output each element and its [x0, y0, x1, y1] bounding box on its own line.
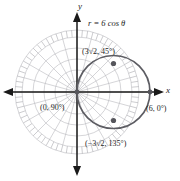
point-label-neg3root2-135deg: (−3√2, 135°) [85, 140, 126, 148]
x-axis-arrow-left [3, 88, 13, 96]
point-label-6-0deg: (6, 0°) [146, 105, 167, 113]
y-axis-arrow-down [73, 166, 81, 176]
grid-spoke [77, 92, 125, 120]
y-axis-arrow-up [73, 12, 81, 22]
point-marker-6-0deg [148, 90, 153, 95]
grid-spoke [38, 53, 77, 92]
grid-spoke [50, 44, 78, 92]
grid-spoke [29, 65, 77, 93]
point-marker-pole-0-90deg [75, 90, 80, 95]
x-axis-arrow-right [154, 88, 164, 96]
grid-spoke [50, 92, 78, 140]
point-label-0-90deg: (0, 90°) [40, 104, 65, 112]
polar-graph-figure: x y r = 6 cos θ (3√2, 45°) (6, 0°) (0, 9… [0, 0, 180, 181]
x-axis [3, 88, 164, 96]
grid-spoke [77, 65, 125, 93]
y-axis-label: y [78, 2, 82, 11]
x-axis-label: x [166, 86, 170, 95]
point-label-3root2-45deg: (3√2, 45°) [82, 48, 115, 56]
point-marker-neg3root2-135deg [111, 118, 116, 123]
point-marker-3root2-45deg [111, 61, 116, 66]
grid-spoke [77, 92, 105, 140]
equation-label: r = 6 cos θ [88, 19, 125, 28]
